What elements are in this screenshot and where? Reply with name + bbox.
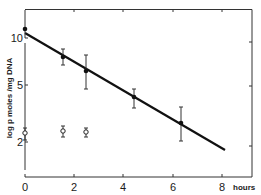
axis-ticks xyxy=(25,10,252,178)
x-tick-label-8: 8 xyxy=(219,181,225,193)
plot-frame xyxy=(25,10,252,178)
data-point xyxy=(61,55,66,60)
x-tick-label-2: 2 xyxy=(71,181,77,193)
data-point-open xyxy=(23,131,27,135)
open-series-error-bars xyxy=(23,126,88,140)
data-point xyxy=(84,69,89,74)
data-point xyxy=(132,95,137,100)
data-point-open xyxy=(61,129,65,133)
data-point xyxy=(23,27,28,32)
y-tick-label-10: 10 xyxy=(11,32,23,44)
filled-series-error-bars xyxy=(25,10,183,141)
y-tick-label-5: 5 xyxy=(17,79,23,91)
regression-line xyxy=(25,33,225,150)
open-series-markers xyxy=(23,129,88,135)
x-tick-label-4: 4 xyxy=(120,181,126,193)
x-tick-label-6: 6 xyxy=(170,181,176,193)
x-tick-label-0: 0 xyxy=(22,181,28,193)
data-point xyxy=(179,121,184,126)
decay-chart: 0 2 4 6 8 hours 10 5 2 log p moles /mg D… xyxy=(0,0,261,195)
y-tick-label-2: 2 xyxy=(17,136,23,148)
y-axis-title: log p moles /mg DNA xyxy=(5,58,14,139)
data-point-open xyxy=(84,130,88,134)
x-axis-unit: hours xyxy=(233,183,256,192)
